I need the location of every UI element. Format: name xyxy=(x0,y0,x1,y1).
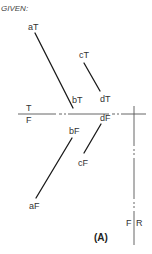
fold-label-F-right: F xyxy=(126,218,132,228)
segment-aT-bT xyxy=(35,33,73,108)
fold-label-R: R xyxy=(136,218,143,228)
point-label-cT: cT xyxy=(79,50,90,60)
point-label-aT: aT xyxy=(28,22,39,32)
point-label-bT: bT xyxy=(72,95,83,105)
segment-aF-bF xyxy=(36,138,72,198)
given-diagram: GIVEN: T F F R aT bT cT dT bF dF cF aF (… xyxy=(0,0,152,254)
segment-cT-dT xyxy=(84,63,100,91)
fold-label-F: F xyxy=(26,115,32,125)
point-label-dT: dT xyxy=(100,94,111,104)
fold-label-T: T xyxy=(26,103,32,113)
given-label: GIVEN: xyxy=(1,4,28,13)
point-label-aF: aF xyxy=(29,201,40,211)
point-label-cF: cF xyxy=(78,158,89,168)
point-label-bF: bF xyxy=(69,126,80,136)
segment-cF-dF xyxy=(84,124,101,153)
figure-caption: (A) xyxy=(94,232,108,243)
point-label-dF: dF xyxy=(100,113,111,123)
